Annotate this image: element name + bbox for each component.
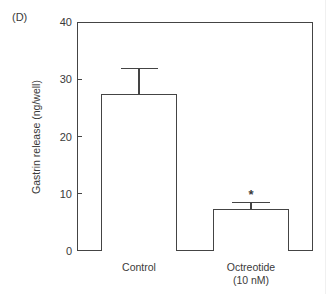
x-label-line1: Control xyxy=(122,261,156,274)
bar-octreotide xyxy=(213,209,289,251)
y-tick xyxy=(77,79,82,80)
y-tick-label: 10 xyxy=(48,188,72,200)
x-category-label: Control xyxy=(122,261,156,274)
error-bar xyxy=(138,68,139,94)
panel-label: (D) xyxy=(12,11,27,23)
y-tick-label: 30 xyxy=(48,73,72,85)
significance-marker: * xyxy=(248,187,253,202)
y-tick xyxy=(77,136,82,137)
y-axis-label: Gastrin release (ng/well) xyxy=(30,80,42,194)
bar-control xyxy=(101,94,177,251)
y-tick-label: 20 xyxy=(48,131,72,143)
scan-artifact-line xyxy=(325,0,326,294)
error-bar-cap xyxy=(232,202,270,203)
y-tick xyxy=(77,193,82,194)
x-label-line1: Octreotide xyxy=(227,261,275,274)
y-tick-label: 40 xyxy=(48,16,72,28)
y-tick-label: 0 xyxy=(48,245,72,257)
error-bar-cap xyxy=(121,68,158,69)
x-label-line2: (10 nM) xyxy=(227,274,275,287)
x-category-label: Octreotide(10 nM) xyxy=(227,261,275,287)
